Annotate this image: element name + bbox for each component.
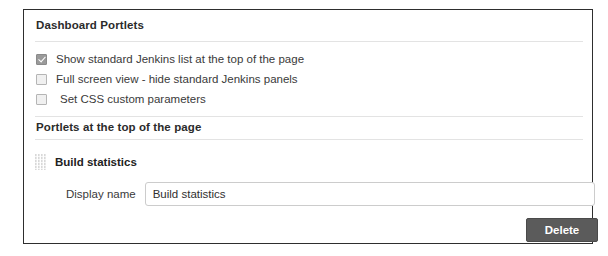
checkbox-set-css-parameters[interactable] <box>36 94 47 105</box>
delete-button[interactable]: Delete <box>526 218 598 242</box>
option-label-show-standard-list: Show standard Jenkins list at the top of… <box>56 53 304 65</box>
display-name-field-row: Display name <box>66 182 595 206</box>
checkbox-full-screen-view[interactable] <box>36 74 47 85</box>
screen: Dashboard Portlets Show standard Jenkins… <box>0 0 608 256</box>
option-row-show-standard-list[interactable]: Show standard Jenkins list at the top of… <box>36 51 304 67</box>
display-name-input[interactable] <box>145 182 595 206</box>
dashboard-portlets-panel: Dashboard Portlets Show standard Jenkins… <box>23 9 593 244</box>
divider-under-subheading <box>35 139 583 140</box>
portlet-header-row: Build statistics <box>35 154 137 170</box>
option-label-set-css-parameters: Set CSS custom parameters <box>60 93 206 105</box>
divider-under-heading <box>35 41 583 42</box>
checkbox-show-standard-list[interactable] <box>36 54 47 65</box>
display-name-label: Display name <box>66 188 136 200</box>
divider-above-subheading <box>35 116 583 117</box>
portlet-title: Build statistics <box>55 156 137 168</box>
option-row-set-css-parameters[interactable]: Set CSS custom parameters <box>36 91 206 107</box>
drag-grip-icon[interactable] <box>35 154 47 170</box>
section-subtitle-portlets-top: Portlets at the top of the page <box>36 121 201 133</box>
page-title: Dashboard Portlets <box>36 19 144 31</box>
option-label-full-screen-view: Full screen view - hide standard Jenkins… <box>56 73 298 85</box>
option-row-full-screen-view[interactable]: Full screen view - hide standard Jenkins… <box>36 71 298 87</box>
